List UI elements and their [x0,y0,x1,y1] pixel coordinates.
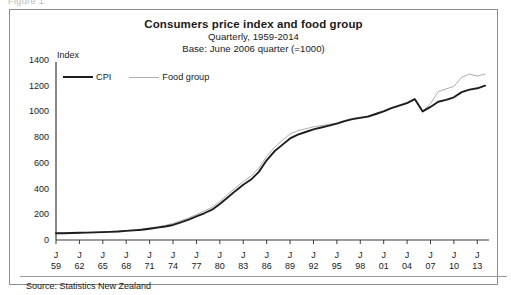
series-line-food-group [56,74,485,233]
x-tick-year: 92 [308,261,318,272]
x-tick-year: 83 [238,261,248,272]
x-tick-month: J [402,250,412,261]
x-tick-year: 01 [379,261,389,272]
y-axis-tick-label: 1200 [19,81,49,91]
x-tick-month: J [98,250,108,261]
x-axis-tick-label: J04 [402,250,412,272]
x-axis-tick-label: J77 [191,250,201,272]
x-axis-tick-label: J83 [238,250,248,272]
x-tick-month: J [472,250,482,261]
x-axis-tick-label: J07 [425,250,435,272]
x-tick-year: 98 [355,261,365,272]
x-tick-month: J [308,250,318,261]
x-tick-month: J [285,250,295,261]
x-tick-month: J [145,250,155,261]
x-axis-tick-label: J98 [355,250,365,272]
chart-frame: Consumers price index and food group Qua… [9,9,498,285]
x-axis-tick-label: J13 [472,250,482,272]
x-tick-year: 86 [262,261,272,272]
x-tick-year: 62 [74,261,84,272]
x-axis-tick-label: J01 [379,250,389,272]
x-tick-month: J [74,250,84,261]
x-axis-tick-label: J74 [168,250,178,272]
x-axis-tick-label: J89 [285,250,295,272]
y-axis-tick-label: 800 [19,132,49,142]
y-axis-tick-label: 600 [19,158,49,168]
source-text: Source: Statistics New Zealand [26,281,151,291]
chart-title: Consumers price index and food group [10,17,497,31]
y-axis-tick-label: 0 [19,235,49,245]
x-tick-month: J [425,250,435,261]
x-tick-month: J [51,250,61,261]
x-axis-tick-label: J59 [51,250,61,272]
x-tick-month: J [355,250,365,261]
x-tick-month: J [262,250,272,261]
title-block: Consumers price index and food group Qua… [10,17,497,55]
x-axis-tick-label: J92 [308,250,318,272]
y-axis-tick-label: 200 [19,209,49,219]
x-tick-year: 59 [51,261,61,272]
x-tick-year: 89 [285,261,295,272]
x-axis-tick-label: J80 [215,250,225,272]
x-axis-tick-labels: J59J62J65J68J71J74J77J80J83J86J89J92J95J… [47,250,497,278]
plot-svg [47,58,491,248]
x-tick-month: J [121,250,131,261]
chart-base-note: Base: June 2006 quarter (=1000) [10,43,497,55]
x-tick-month: J [379,250,389,261]
x-axis-tick-label: J86 [262,250,272,272]
x-tick-year: 71 [145,261,155,272]
y-axis-tick-label: 1000 [19,106,49,116]
x-tick-year: 68 [121,261,131,272]
x-tick-year: 77 [191,261,201,272]
chart-subtitle: Quarterly, 1959-2014 [10,31,497,43]
x-axis-tick-label: J95 [332,250,342,272]
source-divider [20,276,507,277]
x-tick-month: J [191,250,201,261]
x-axis-tick-label: J71 [145,250,155,272]
y-axis-tick-label: 400 [19,184,49,194]
x-axis-tick-label: J10 [449,250,459,272]
y-axis-tick-labels: 0200400600800100012001400 [19,58,49,248]
series-line-cpi [56,86,485,234]
figure-caption: Figure 1 [8,0,44,7]
x-tick-year: 10 [449,261,459,272]
x-axis-tick-label: J62 [74,250,84,272]
x-tick-month: J [215,250,225,261]
x-tick-year: 80 [215,261,225,272]
x-tick-year: 74 [168,261,178,272]
x-tick-month: J [449,250,459,261]
x-tick-year: 65 [98,261,108,272]
x-axis-tick-label: J68 [121,250,131,272]
x-tick-year: 95 [332,261,342,272]
x-tick-year: 07 [425,261,435,272]
x-axis-tick-label: J65 [98,250,108,272]
y-axis-tick-label: 1400 [19,55,49,65]
x-tick-month: J [238,250,248,261]
x-tick-year: 04 [402,261,412,272]
x-tick-month: J [168,250,178,261]
x-tick-year: 13 [472,261,482,272]
x-tick-month: J [332,250,342,261]
plot-area [47,58,491,248]
